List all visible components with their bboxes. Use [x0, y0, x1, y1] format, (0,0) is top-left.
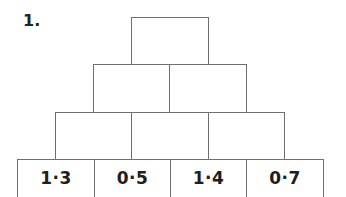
pyramid-brick-r4-3[interactable]: 1·4 — [170, 159, 247, 197]
pyramid-brick-r2-2[interactable] — [169, 64, 247, 113]
pyramid-brick-r4-2[interactable]: 0·5 — [94, 159, 171, 197]
brick-value: 1·4 — [193, 168, 225, 188]
brick-value: 0·5 — [117, 168, 149, 188]
pyramid-brick-r4-4[interactable]: 0·7 — [246, 159, 324, 197]
pyramid-brick-r4-1[interactable]: 1·3 — [17, 159, 95, 197]
pyramid-brick-r1-1[interactable] — [131, 17, 209, 65]
brick-value: 1·3 — [40, 168, 72, 188]
pyramid-brick-r3-2[interactable] — [131, 112, 209, 160]
brick-value: 0·7 — [269, 168, 301, 188]
pyramid-brick-r2-1[interactable] — [93, 64, 170, 113]
pyramid-brick-r3-1[interactable] — [55, 112, 132, 160]
question-number: 1. — [23, 12, 40, 30]
pyramid-brick-r3-3[interactable] — [208, 112, 285, 160]
